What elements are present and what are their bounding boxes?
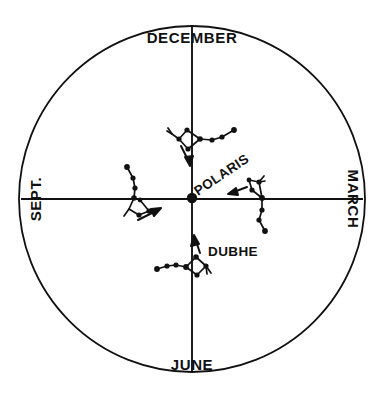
star-dot [249, 187, 254, 192]
star-dot [256, 217, 261, 222]
dipper-june-handle [157, 265, 186, 269]
star-dot [259, 207, 264, 212]
motion-arrow-september-head [151, 208, 161, 216]
motion-arrow-march-head [228, 188, 238, 195]
star-dot [130, 175, 135, 180]
star-dot [219, 134, 224, 139]
star-dot [262, 228, 268, 234]
star-dot [256, 179, 261, 184]
dipper-september-handle [127, 167, 135, 198]
polaris-star-dot [187, 193, 197, 203]
dipper-march-handle [259, 198, 265, 231]
star-dot [136, 212, 141, 217]
star-dot [184, 127, 189, 132]
dipper-june [154, 235, 211, 278]
star-chart-figure: DECEMBER JUNE SEPT. MARCH POLARIS DUBHE [0, 0, 382, 394]
diagram-canvas: DECEMBER JUNE SEPT. MARCH POLARIS DUBHE [0, 0, 382, 394]
season-label-march: MARCH [345, 170, 362, 229]
star-dot [194, 272, 199, 277]
dipper-december-shape [172, 130, 200, 149]
star-dot [131, 195, 137, 201]
season-label-sept: SEPT. [27, 177, 44, 222]
season-label-december: DECEMBER [147, 29, 238, 46]
dipper-december-handle [200, 130, 234, 140]
star-dot-dubhe [193, 254, 199, 260]
dipper-september-pointer [124, 209, 129, 216]
dipper-december [167, 127, 237, 166]
star-dot [132, 185, 137, 190]
star-dot [138, 198, 143, 203]
star-dot [176, 136, 181, 141]
star-dot [124, 164, 130, 170]
star-dot [154, 266, 160, 272]
dipper-march [228, 176, 268, 234]
star-dot [259, 195, 265, 201]
star-dot [183, 264, 189, 270]
star-dot [173, 262, 178, 267]
star-dot [197, 136, 203, 142]
season-label-june: JUNE [171, 356, 213, 373]
star-label-polaris: POLARIS [191, 151, 251, 199]
star-dot [203, 263, 208, 268]
star-label-dubhe: DUBHE [208, 244, 258, 259]
star-dot [164, 263, 169, 268]
star-dot [231, 127, 237, 133]
dipper-september [124, 164, 161, 220]
star-dot [209, 137, 214, 142]
star-dot [247, 178, 252, 183]
star-dot [185, 146, 190, 151]
